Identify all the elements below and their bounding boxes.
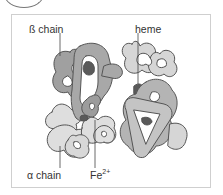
beta-chain-label: ß chain bbox=[29, 24, 63, 35]
alpha-chain-right-lower bbox=[168, 123, 187, 149]
iron-label: Fe2+ bbox=[90, 170, 110, 181]
alpha-chain-label: α chain bbox=[27, 170, 61, 181]
heme-label: heme bbox=[135, 24, 161, 35]
iron-symbol: Fe bbox=[90, 169, 102, 181]
alpha-chain-right-back bbox=[122, 41, 177, 76]
iron-charge: 2+ bbox=[102, 168, 110, 175]
